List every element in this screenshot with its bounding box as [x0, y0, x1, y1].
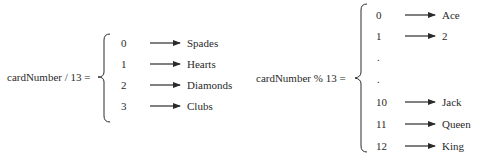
rank-label: Jack	[442, 97, 462, 108]
rank-value: 10	[376, 97, 387, 108]
rank-value: 0	[376, 10, 382, 21]
rank-label: Ace	[442, 10, 460, 21]
suit-label: Hearts	[187, 59, 216, 70]
suit-expression: cardNumber / 13 =	[7, 72, 90, 83]
suit-value: 1	[121, 59, 127, 70]
rank-label: King	[442, 141, 464, 152]
rank-value: 1	[376, 31, 382, 42]
rank-value: 12	[376, 141, 387, 152]
left-brace-icon	[98, 34, 110, 122]
rank-ellipsis: .	[377, 52, 380, 63]
rank-expression: cardNumber % 13 =	[256, 73, 346, 84]
suit-label: Clubs	[187, 101, 213, 112]
suit-label: Spades	[187, 38, 218, 49]
rank-label: Queen	[442, 119, 471, 130]
rank-label: 2	[442, 31, 448, 42]
right-brace-icon	[355, 4, 367, 152]
suit-value: 0	[121, 38, 127, 49]
suit-value: 3	[121, 101, 127, 112]
suit-value: 2	[121, 80, 127, 91]
rank-value: 11	[376, 119, 387, 130]
rank-ellipsis: .	[377, 74, 380, 85]
suit-label: Diamonds	[187, 80, 232, 91]
